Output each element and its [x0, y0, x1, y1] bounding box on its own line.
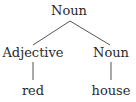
edge-root-noun — [70, 21, 110, 45]
node-root-noun: Noun — [51, 4, 87, 18]
leaf-red: red — [22, 84, 44, 98]
node-adjective: Adjective — [2, 46, 63, 60]
edge-root-adjective — [33, 21, 70, 45]
leaf-house: house — [92, 84, 131, 98]
node-noun: Noun — [93, 46, 129, 60]
syntax-tree: Noun Adjective Noun red house — [0, 0, 136, 102]
